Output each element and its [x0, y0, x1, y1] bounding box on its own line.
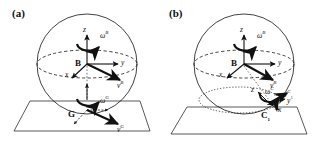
point-label-b-a: B [75, 59, 81, 68]
axis-label-z-b-b: z [240, 26, 243, 34]
omega-label-g-a: ωG [100, 95, 109, 104]
omega-sup-b-b: B [262, 30, 265, 35]
panel-a-graphics [0, 0, 157, 142]
omega-arc-b-a [77, 44, 99, 51]
panel-a: (a) B z y x ωB vB G ωG vG [0, 0, 157, 142]
omega-arc-b-b [234, 44, 256, 51]
point-c-subscript: 1 [268, 117, 271, 122]
frame-g-a [74, 84, 118, 124]
velocity-vector-b-a [87, 64, 120, 80]
panel-label-a: (a) [12, 8, 25, 19]
axis-label-x-c1-b: x [278, 106, 281, 114]
velocity-sup-sub-c1-b: 1 [291, 95, 293, 100]
figure-root: (a) B z y x ωB vB G ωG vG [0, 0, 314, 142]
panel-b-graphics [157, 0, 314, 142]
velocity-vector-g-a [87, 110, 118, 124]
axis-label-x-b-b: x [219, 71, 222, 79]
omega-label-b-b: ωB [257, 30, 265, 39]
axis-label-x-b-a: x [65, 71, 68, 79]
omega-label-c1-b: ωC1 [265, 86, 276, 97]
axis-label-y-b-b: y [278, 59, 281, 67]
point-label-c1-b: C1 [261, 111, 270, 122]
omega-arc-g-a [77, 99, 99, 106]
omega-sup-sub-c1-b: 1 [274, 92, 276, 97]
omega-label-b-a: ωB [100, 30, 108, 39]
panel-b: (b) B z y x ωB vB C1 z y x ωC1 vC1 [157, 0, 314, 142]
omega-sup-g-a: G [105, 95, 109, 100]
velocity-sup-b-a: B [120, 80, 123, 85]
axis-label-z-b-a: z [83, 26, 86, 34]
velocity-label-g-a: vG [117, 124, 124, 133]
point-label-g-a: G [68, 110, 75, 119]
velocity-sup-b-b: B [273, 80, 276, 85]
velocity-label-c1-b: vC1 [284, 89, 293, 100]
omega-sup-c1-b: C [270, 86, 273, 91]
velocity-sup-g-a: G [120, 124, 124, 129]
panel-label-b: (b) [169, 8, 182, 19]
axis-label-z-c1-b: z [251, 86, 254, 94]
axis-label-y-b-a: y [121, 59, 124, 67]
ground-plane-b [171, 107, 307, 134]
velocity-sup-c1-b: C [287, 89, 290, 94]
velocity-label-b-a: vB [117, 80, 123, 89]
omega-sup-b-a: B [105, 30, 108, 35]
axis-x-arrow-g-a [74, 110, 87, 124]
point-label-b-b: B [231, 59, 237, 68]
